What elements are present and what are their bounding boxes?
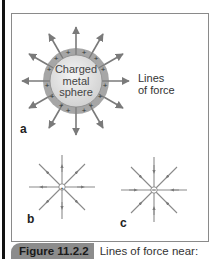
lines-of-force-line2: of force bbox=[138, 84, 175, 96]
svg-text:+: + bbox=[54, 54, 59, 63]
svg-text:+: + bbox=[45, 81, 50, 90]
lines-of-force-label: Lines of force bbox=[138, 72, 175, 96]
panel-c-negative-charge bbox=[121, 157, 187, 222]
svg-text:+: + bbox=[59, 101, 64, 110]
svg-text:+: + bbox=[89, 101, 94, 110]
caption-text: Lines of force near: bbox=[94, 243, 198, 259]
sphere-label-line1: Charged bbox=[50, 64, 102, 76]
svg-text:+: + bbox=[82, 106, 87, 115]
sphere-label: Charged metal sphere bbox=[50, 64, 102, 99]
figure-number: Figure 11.2.2 bbox=[11, 243, 94, 259]
svg-text:+: + bbox=[66, 106, 71, 115]
panel-label-c: c bbox=[120, 216, 127, 230]
svg-text:+: + bbox=[94, 54, 99, 63]
panel-label-a: a bbox=[20, 122, 27, 136]
lines-of-force-line1: Lines bbox=[138, 72, 175, 84]
svg-text:+: + bbox=[103, 81, 108, 90]
panel-label-b: b bbox=[27, 212, 34, 226]
svg-text:+: + bbox=[60, 185, 64, 191]
svg-text:+: + bbox=[66, 48, 71, 57]
sphere-label-line3: sphere bbox=[50, 87, 102, 99]
figure-caption: Figure 11.2.2 Lines of force near: bbox=[11, 243, 198, 259]
svg-text:+: + bbox=[82, 48, 87, 57]
panel-b-positive-charge: + bbox=[29, 155, 95, 219]
